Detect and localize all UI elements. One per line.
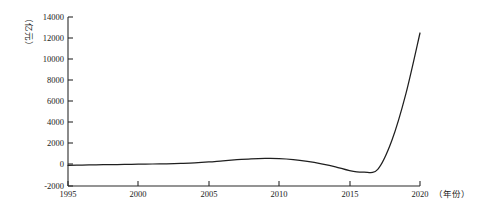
y-axis-tick-labels: 14000 12000 10000 8000 6000 4000 2000 0 …	[43, 12, 64, 191]
line-chart: 14000 12000 10000 8000 6000 4000 2000 0 …	[0, 0, 484, 216]
y-tick-label: 10000	[43, 54, 64, 64]
x-axis-unit-label: （年份）	[434, 189, 470, 199]
series-line-0	[68, 33, 420, 173]
x-axis-ticks	[68, 181, 420, 186]
y-tick-label: 6000	[47, 96, 64, 106]
y-tick-label: 4000	[47, 117, 64, 127]
x-tick-label: 2015	[342, 189, 359, 199]
y-axis-ticks	[68, 17, 73, 186]
y-tick-label: 14000	[43, 12, 64, 22]
x-tick-label: 2005	[201, 189, 218, 199]
y-tick-label: 12000	[43, 33, 64, 43]
y-tick-label: 8000	[47, 75, 64, 85]
x-tick-label: 2000	[130, 189, 147, 199]
x-tick-label: 2020	[412, 189, 429, 199]
x-tick-label: 2010	[271, 189, 288, 199]
y-tick-label: 2000	[47, 138, 64, 148]
chart-container: 14000 12000 10000 8000 6000 4000 2000 0 …	[0, 0, 484, 216]
y-tick-label: 0	[60, 159, 64, 169]
y-axis-unit-label: （亿元）	[24, 14, 34, 50]
x-tick-label: 1995	[60, 189, 77, 199]
x-axis-tick-labels: 1995 2000 2005 2010 2015 2020	[60, 189, 429, 199]
